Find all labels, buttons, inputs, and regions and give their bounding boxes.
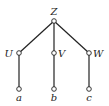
label-u: U: [5, 48, 14, 59]
node-z: [52, 19, 57, 24]
label-a: a: [16, 92, 22, 103]
node-u: [17, 51, 22, 56]
edge-z-u: [19, 21, 54, 53]
node-b: [52, 87, 57, 92]
node-a: [17, 87, 22, 92]
node-w: [87, 51, 92, 56]
tree-diagram: Z U V W a b c: [0, 0, 109, 106]
label-b: b: [51, 92, 57, 103]
node-c: [87, 87, 92, 92]
label-v: V: [58, 48, 67, 59]
label-c: c: [86, 92, 92, 103]
label-z: Z: [50, 6, 59, 17]
label-w: W: [93, 48, 104, 59]
node-v: [52, 51, 57, 56]
